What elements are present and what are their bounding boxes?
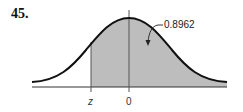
shaded-area bbox=[91, 18, 227, 87]
zero-tick-label: 0 bbox=[126, 96, 132, 107]
area-label: 0.8962 bbox=[164, 19, 195, 30]
z-tick-label: z bbox=[87, 96, 93, 107]
normal-curve-chart: 0.8962 z 0 bbox=[0, 0, 243, 112]
